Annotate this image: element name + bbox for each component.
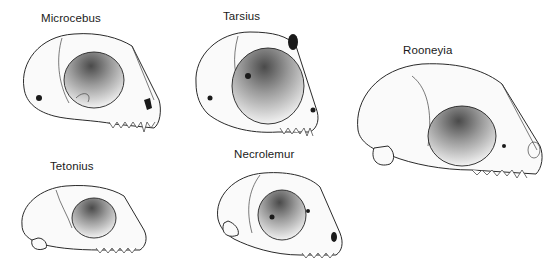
tetonius-skull-illustration: [16, 180, 152, 260]
specimen-label-tetonius: Tetonius: [50, 160, 94, 172]
specimen-label-necrolemur: Necrolemur: [234, 148, 294, 160]
specimen-label-rooneyia: Rooneyia: [403, 44, 452, 56]
specimen-label-microcebus: Microcebus: [41, 12, 101, 24]
microcebus-skull-illustration: [14, 28, 164, 138]
rooneyia-skull-illustration: [352, 60, 548, 190]
tarsius-skull-illustration: [188, 28, 328, 138]
specimen-label-tarsius: Tarsius: [223, 10, 260, 22]
necrolemur-skull-illustration: [212, 167, 352, 263]
